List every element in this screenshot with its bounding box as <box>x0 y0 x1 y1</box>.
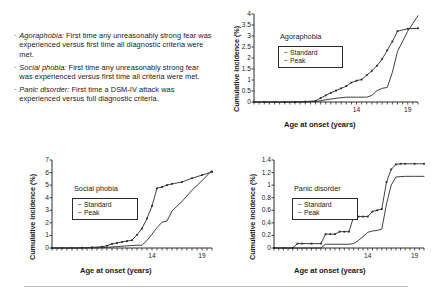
legend-item-peak[interactable]: −Peak <box>75 209 133 217</box>
x-axis-label: Age at onset (years) <box>284 120 356 129</box>
data-point <box>106 245 108 247</box>
data-point <box>141 228 143 230</box>
data-point <box>386 181 388 183</box>
data-point <box>320 97 322 99</box>
data-point <box>320 243 322 245</box>
data-point <box>376 209 378 211</box>
bullet-glyph: · <box>14 85 16 94</box>
note-term: Agoraphobia: <box>19 31 64 40</box>
data-point <box>136 234 138 236</box>
data-point <box>356 80 358 82</box>
note-term: Panic disorder: <box>19 85 69 94</box>
x-axis-label: Age at onset (years) <box>80 266 152 275</box>
data-point <box>339 231 341 233</box>
data-point <box>330 92 332 94</box>
data-point <box>391 41 393 43</box>
legend-item-standard[interactable]: −Standard <box>75 201 133 209</box>
data-point <box>191 177 193 179</box>
data-point <box>400 163 402 165</box>
data-point <box>348 231 350 233</box>
note-term: Social phobia: <box>19 63 66 72</box>
legend-label: Standard <box>84 201 112 209</box>
data-point <box>414 163 416 165</box>
note-body: Social phobia: First time any unreasonab… <box>19 63 212 82</box>
x-tick-label: 14 <box>145 252 159 259</box>
legend-panic-disorder[interactable]: −Standard−Peak <box>292 198 358 220</box>
x-tick-label: 19 <box>195 252 209 259</box>
y-axis-label: Cumulative incidence (%) <box>248 174 257 260</box>
data-point <box>334 233 336 235</box>
chart-title-social-phobia: Social phobia <box>74 184 118 193</box>
data-point <box>340 87 342 89</box>
note-body: Agoraphobia: First time any unreasonably… <box>19 31 212 59</box>
y-tick-label: 7 <box>28 156 49 163</box>
data-point <box>390 169 392 171</box>
legend-item-peak[interactable]: −Peak <box>295 209 353 217</box>
legend-social-phobia[interactable]: −Standard−Peak <box>72 198 138 220</box>
data-point <box>367 216 369 218</box>
legend-item-peak[interactable]: −Peak <box>281 57 338 65</box>
x-tick-label: 14 <box>350 106 364 113</box>
footer-rule <box>24 286 408 287</box>
data-point <box>417 27 419 29</box>
chart-agoraphobia: 00.511.522.533.541419Cumulative incidenc… <box>222 4 428 132</box>
legend-label: Peak <box>290 57 306 65</box>
legend-marker-icon: − <box>295 209 304 217</box>
data-point <box>325 233 327 235</box>
data-point <box>311 243 313 245</box>
data-point <box>146 218 148 220</box>
data-point <box>386 49 388 51</box>
list-item: · Panic disorder: First time a DSM-IV at… <box>14 85 212 104</box>
data-point <box>397 30 399 32</box>
data-point <box>407 28 409 30</box>
x-tick-label: 14 <box>361 252 375 259</box>
data-point <box>381 58 383 60</box>
x-axis-label: Age at onset (years) <box>294 266 366 275</box>
data-point <box>335 90 337 92</box>
y-axis-label: Cumulative incidence (%) <box>232 26 241 112</box>
legend-marker-icon: − <box>295 201 304 209</box>
data-point <box>131 239 133 241</box>
legend-agoraphobia[interactable]: −Standard−Peak <box>278 46 343 68</box>
legend-item-standard[interactable]: −Standard <box>295 201 353 209</box>
data-point <box>395 164 397 166</box>
note-body: Panic disorder: First time a DSM-IV atta… <box>19 85 212 104</box>
chart-title-agoraphobia: Agoraphobia <box>280 32 321 41</box>
data-point <box>404 163 406 165</box>
legend-marker-icon: − <box>75 201 84 209</box>
legend-label: Standard <box>290 49 318 57</box>
legend-label: Peak <box>304 209 320 217</box>
y-axis-label: Cumulative incidence (%) <box>28 174 37 260</box>
legend-item-standard[interactable]: −Standard <box>281 49 338 57</box>
data-point <box>372 211 374 213</box>
chart-social-phobia: 012345671419Cumulative incidence (%)Age … <box>18 150 218 278</box>
data-point <box>345 85 347 87</box>
data-point <box>297 243 299 245</box>
data-point <box>423 163 425 165</box>
y-tick-label: 4 <box>230 10 251 17</box>
data-point <box>151 205 153 207</box>
data-point <box>116 242 118 244</box>
x-tick-label: 19 <box>408 252 422 259</box>
data-point <box>329 233 331 235</box>
data-point <box>156 187 158 189</box>
data-point <box>376 65 378 67</box>
data-point <box>181 181 183 183</box>
figure-page: · Agoraphobia: First time any unreasonab… <box>0 0 432 295</box>
definition-notes: · Agoraphobia: First time any unreasonab… <box>14 31 212 107</box>
legend-label: Peak <box>84 209 100 217</box>
data-point <box>301 243 303 245</box>
bullet-glyph: · <box>14 63 16 72</box>
data-point <box>325 95 327 97</box>
data-point <box>361 79 363 81</box>
bullet-glyph: · <box>14 31 16 40</box>
data-point <box>362 216 364 218</box>
data-point <box>161 186 163 188</box>
chart-title-panic-disorder: Panic disorder <box>294 184 341 193</box>
legend-marker-icon: − <box>281 57 290 65</box>
plot-area-agoraphobia <box>222 4 428 132</box>
data-point <box>166 184 168 186</box>
legend-marker-icon: − <box>281 49 290 57</box>
data-point <box>381 208 383 210</box>
data-point <box>126 240 128 242</box>
